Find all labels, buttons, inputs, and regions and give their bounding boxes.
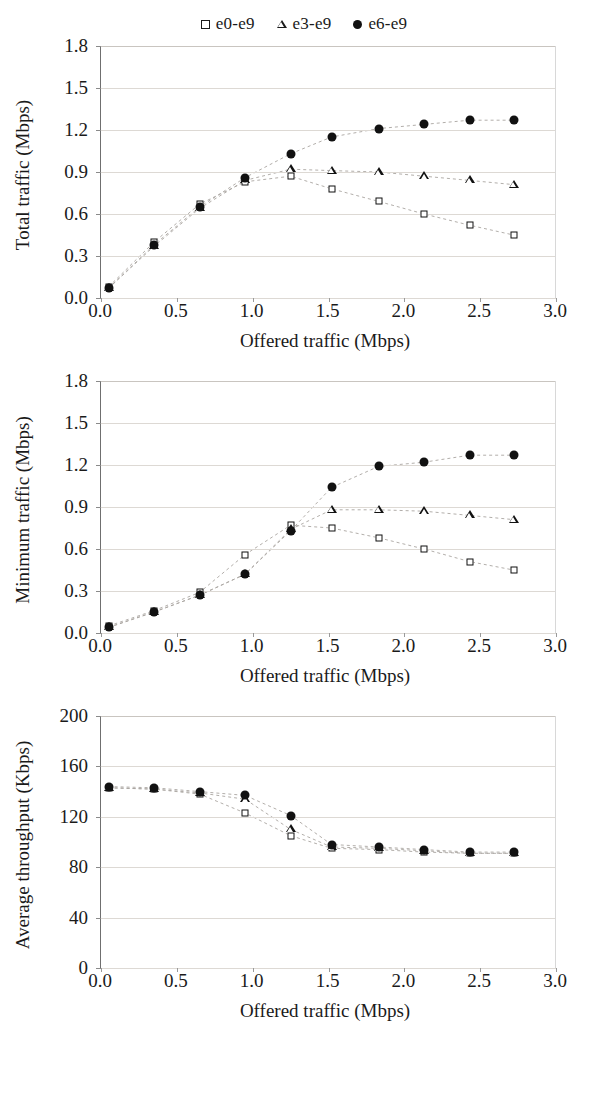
x-tick-label: 2.5 bbox=[467, 635, 491, 657]
gridline bbox=[101, 214, 556, 215]
y-tick-mark bbox=[96, 918, 101, 919]
chart-panel-minimum-traffic: Minimum traffic (Mbps) 0.00.30.60.91.21.… bbox=[0, 381, 608, 717]
legend-entry-e3-e9: e3-e9 bbox=[277, 14, 332, 34]
data-point-e0-e9 bbox=[242, 810, 249, 817]
y-tick-label: 0.6 bbox=[64, 538, 88, 560]
x-tick-label: 0.5 bbox=[164, 300, 188, 322]
y-axis-ticks: 0.00.30.60.91.21.51.8 bbox=[42, 46, 94, 298]
y-axis-ticks: 0.00.30.60.91.21.51.8 bbox=[42, 381, 94, 633]
legend-label-e3-e9: e3-e9 bbox=[293, 14, 332, 34]
legend-label-e6-e9: e6-e9 bbox=[368, 14, 407, 34]
x-tick-label: 2.0 bbox=[391, 970, 415, 992]
gridline bbox=[101, 256, 556, 257]
gridline bbox=[101, 381, 556, 382]
data-point-e6-e9 bbox=[420, 458, 429, 467]
data-point-e0-e9 bbox=[466, 222, 473, 229]
data-point-e3-e9 bbox=[327, 166, 337, 174]
y-tick-mark bbox=[96, 172, 101, 173]
data-point-e6-e9 bbox=[327, 133, 336, 142]
data-point-e6-e9 bbox=[465, 848, 474, 857]
data-point-e0-e9 bbox=[510, 232, 517, 239]
legend-entry-e6-e9: e6-e9 bbox=[353, 14, 407, 34]
data-point-e6-e9 bbox=[150, 608, 159, 617]
y-tick-label: 1.5 bbox=[64, 412, 88, 434]
gridline bbox=[101, 766, 556, 767]
x-axis-ticks: 0.00.51.01.52.02.53.0 bbox=[100, 635, 555, 661]
y-tick-mark bbox=[96, 766, 101, 767]
y-tick-mark bbox=[96, 591, 101, 592]
y-tick-label: 200 bbox=[60, 705, 89, 727]
gridline bbox=[101, 465, 556, 466]
gridline bbox=[101, 817, 556, 818]
y-tick-label: 0.0 bbox=[64, 287, 88, 309]
plot-area bbox=[100, 381, 556, 634]
data-point-e6-e9 bbox=[195, 787, 204, 796]
x-tick-label: 1.5 bbox=[316, 300, 340, 322]
x-tick-label: 2.5 bbox=[467, 300, 491, 322]
data-point-e6-e9 bbox=[465, 116, 474, 125]
data-point-e0-e9 bbox=[421, 211, 428, 218]
data-point-e6-e9 bbox=[327, 483, 336, 492]
gridline bbox=[101, 423, 556, 424]
x-tick-label: 0.5 bbox=[164, 970, 188, 992]
data-point-e6-e9 bbox=[195, 591, 204, 600]
y-tick-label: 1.5 bbox=[64, 77, 88, 99]
y-tick-mark bbox=[96, 465, 101, 466]
square-marker-icon bbox=[201, 20, 210, 29]
gridline bbox=[101, 591, 556, 592]
data-point-e0-e9 bbox=[242, 551, 249, 558]
x-tick-label: 3.0 bbox=[543, 970, 567, 992]
data-point-e0-e9 bbox=[510, 567, 517, 574]
data-point-e3-e9 bbox=[286, 824, 296, 832]
gridline bbox=[101, 549, 556, 550]
data-point-e3-e9 bbox=[374, 505, 384, 513]
gridline bbox=[101, 46, 556, 47]
x-tick-label: 3.0 bbox=[543, 635, 567, 657]
y-tick-mark bbox=[96, 46, 101, 47]
data-point-e3-e9 bbox=[374, 167, 384, 175]
data-point-e6-e9 bbox=[104, 284, 113, 293]
data-point-e3-e9 bbox=[327, 505, 337, 513]
data-point-e6-e9 bbox=[286, 149, 295, 158]
x-axis-ticks: 0.00.51.01.52.02.53.0 bbox=[100, 970, 555, 996]
x-axis-title: Offered traffic (Mbps) bbox=[42, 330, 590, 352]
y-tick-mark bbox=[96, 423, 101, 424]
chart-legend: e0-e9 e3-e9 e6-e9 bbox=[0, 14, 608, 34]
data-point-e6-e9 bbox=[104, 623, 113, 632]
data-point-e0-e9 bbox=[328, 185, 335, 192]
y-tick-label: 120 bbox=[60, 806, 89, 828]
data-point-e6-e9 bbox=[327, 840, 336, 849]
data-point-e6-e9 bbox=[195, 203, 204, 212]
x-tick-label: 3.0 bbox=[543, 300, 567, 322]
y-tick-mark bbox=[96, 867, 101, 868]
x-tick-label: 2.0 bbox=[391, 300, 415, 322]
data-point-e3-e9 bbox=[419, 171, 429, 179]
y-axis-title: Total traffic (Mbps) bbox=[6, 46, 40, 304]
data-point-e6-e9 bbox=[420, 845, 429, 854]
y-tick-mark bbox=[96, 130, 101, 131]
y-tick-mark bbox=[96, 381, 101, 382]
y-tick-mark bbox=[96, 716, 101, 717]
y-tick-label: 40 bbox=[69, 907, 88, 929]
y-tick-label: 1.8 bbox=[64, 35, 88, 57]
data-point-e6-e9 bbox=[104, 782, 113, 791]
data-point-e6-e9 bbox=[150, 783, 159, 792]
y-tick-label: 160 bbox=[60, 755, 89, 777]
x-tick-label: 0.0 bbox=[88, 635, 112, 657]
data-point-e6-e9 bbox=[241, 791, 250, 800]
y-tick-label: 0.3 bbox=[64, 580, 88, 602]
x-axis-title: Offered traffic (Mbps) bbox=[42, 1000, 590, 1022]
data-point-e0-e9 bbox=[375, 534, 382, 541]
data-point-e0-e9 bbox=[466, 558, 473, 565]
legend-entry-e0-e9: e0-e9 bbox=[201, 14, 255, 34]
x-tick-label: 1.0 bbox=[240, 635, 264, 657]
y-tick-label: 1.2 bbox=[64, 119, 88, 141]
y-tick-label: 0.0 bbox=[64, 622, 88, 644]
gridline bbox=[101, 867, 556, 868]
data-point-e0-e9 bbox=[287, 173, 294, 180]
triangle-marker-icon bbox=[277, 20, 287, 28]
x-tick-label: 2.5 bbox=[467, 970, 491, 992]
data-point-e6-e9 bbox=[465, 451, 474, 460]
data-point-e3-e9 bbox=[465, 510, 475, 518]
x-tick-label: 0.5 bbox=[164, 635, 188, 657]
